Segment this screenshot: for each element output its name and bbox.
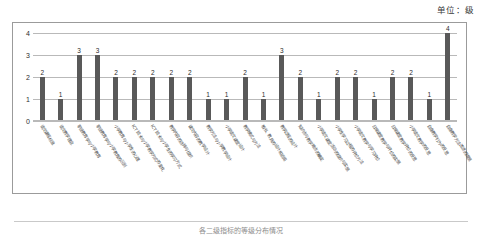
bar[interactable]: [132, 77, 137, 121]
category-slot: 小学语文课堂活动的组织与实施: [310, 123, 328, 195]
category-slot: 教学模式与方法: [236, 123, 254, 195]
bar-value-label: 1: [206, 92, 210, 99]
category-slot: 自身教学行为的反思: [420, 123, 438, 195]
y-tick-label: 3: [20, 52, 30, 59]
bar[interactable]: [187, 77, 192, 121]
bar[interactable]: [206, 99, 211, 121]
caption-rule: [14, 221, 468, 222]
bar-value-label: 2: [169, 70, 173, 77]
bar[interactable]: [408, 77, 413, 121]
bar-slot: 3: [273, 33, 291, 121]
bar-slot: 2: [383, 33, 401, 121]
bar-slot: 1: [310, 33, 328, 121]
gridline-0: [33, 121, 457, 122]
category-slot: 语文课程标准: [33, 123, 51, 195]
bar[interactable]: [335, 77, 340, 121]
bar[interactable]: [150, 77, 155, 121]
bar[interactable]: [372, 99, 377, 121]
bar-slot: 1: [365, 33, 383, 121]
category-slot: 小学语文教学与学习评价: [346, 123, 364, 195]
category-slot: 知识点与教学难点的确定: [291, 123, 309, 195]
bar-value-label: 1: [317, 92, 321, 99]
bar[interactable]: [224, 99, 229, 121]
category-labels: 语文课程标准语文教学理念职业教育学与小学教育职业教育学与小学教育的区别小学教育与…: [33, 123, 457, 195]
bar-slot: 2: [162, 33, 180, 121]
category-slot: 教学内容的选择与组织: [162, 123, 180, 195]
bar[interactable]: [316, 99, 321, 121]
bar-slot: 2: [291, 33, 309, 121]
category-slot: 板书、教具的设计和运用: [254, 123, 272, 195]
bar-slot: 2: [181, 33, 199, 121]
bar-value-label: 2: [114, 70, 118, 77]
bar-slot: 1: [420, 33, 438, 121]
category-slot: ICT 技术与小学教学方式的变化: [125, 123, 143, 195]
y-tick-label: 1: [20, 96, 30, 103]
bar-value-label: 1: [428, 92, 432, 99]
bar-slot: 1: [254, 33, 272, 121]
bar[interactable]: [261, 99, 266, 121]
figure-caption: 各二级指标的等级分布情况: [0, 225, 482, 235]
bar-slot: 1: [51, 33, 69, 121]
bar-slot: 2: [328, 33, 346, 121]
bar[interactable]: [298, 77, 303, 121]
y-tick-label: 2: [20, 74, 30, 81]
category-slot: 小学生学习过程的评价方法: [328, 123, 346, 195]
bar-slot: 1: [199, 33, 217, 121]
y-tick-label: 4: [20, 30, 30, 37]
bar-slot: 3: [88, 33, 106, 121]
bar-slot: 2: [107, 33, 125, 121]
bar-slot: 2: [346, 33, 364, 121]
chart-frame: 43210 21332222211213212212214 语文课程标准语文教学…: [12, 22, 467, 194]
bar-slot: 2: [33, 33, 51, 121]
bar-value-label: 2: [354, 70, 358, 77]
bar-value-label: 2: [40, 70, 44, 77]
plot-area: 43210 21332222211213212212214: [33, 33, 457, 121]
bar[interactable]: [113, 77, 118, 121]
bar[interactable]: [169, 77, 174, 121]
bar-value-label: 1: [225, 92, 229, 99]
category-slot: 语文教学理念: [51, 123, 69, 195]
bar[interactable]: [427, 99, 432, 121]
y-tick-label: 0: [20, 118, 30, 125]
bar-value-label: 2: [151, 70, 155, 77]
bar[interactable]: [390, 77, 395, 121]
bar[interactable]: [40, 77, 45, 121]
bar-value-label: 2: [133, 70, 137, 77]
bar-value-label: 2: [188, 70, 192, 77]
category-slot: 职业教育学与小学教育的区别: [88, 123, 106, 195]
category-slot: 日常课堂教学与评价的实施: [365, 123, 383, 195]
category-slot: ICT 技术与小学生的学习方式: [144, 123, 162, 195]
bar[interactable]: [243, 77, 248, 121]
bar-value-label: 1: [262, 92, 266, 99]
bar-slot: 2: [402, 33, 420, 121]
bar-value-label: 2: [391, 70, 395, 77]
unit-note: 单位：级: [437, 3, 474, 15]
bar[interactable]: [95, 55, 100, 121]
category-label: 自身教学方法改进的措施: [444, 124, 472, 162]
category-slot: 小学语文课堂设计: [217, 123, 235, 195]
bar-slot: 4: [439, 33, 457, 121]
category-slot: 日常课堂教学评价的反思: [383, 123, 401, 195]
bar-slot: 2: [144, 33, 162, 121]
bar-value-label: 1: [59, 92, 63, 99]
bar[interactable]: [58, 99, 63, 121]
bar-value-label: 3: [77, 48, 81, 55]
bar-value-label: 3: [96, 48, 100, 55]
axis-baseline: [33, 120, 457, 121]
category-slot: 小学教育与小学生的心理: [107, 123, 125, 195]
bar-value-label: 4: [446, 26, 450, 33]
bar[interactable]: [353, 77, 358, 121]
bar[interactable]: [445, 33, 450, 121]
bar-value-label: 2: [299, 70, 303, 77]
bar-value-label: 3: [280, 48, 284, 55]
category-slot: 小学语文教学的反思: [402, 123, 420, 195]
bar[interactable]: [77, 55, 82, 121]
bar-slot: 2: [125, 33, 143, 121]
bar-value-label: 2: [243, 70, 247, 77]
bar[interactable]: [279, 55, 284, 121]
bar-value-label: 1: [372, 92, 376, 99]
bar-value-label: 2: [409, 70, 413, 77]
bar-slot: 1: [217, 33, 235, 121]
category-slot: 教学过程的设计: [273, 123, 291, 195]
bars-layer: 21332222211213212212214: [33, 33, 457, 121]
